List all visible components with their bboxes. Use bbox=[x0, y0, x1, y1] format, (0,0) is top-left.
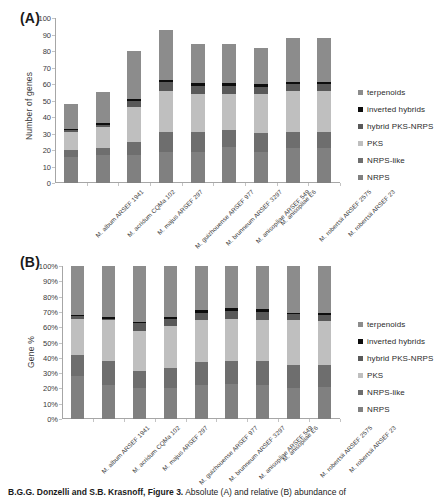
legend-item: hybrid PKS-NRPS bbox=[358, 350, 433, 366]
legend-swatch-hybrid-pks-nrps bbox=[358, 356, 363, 361]
bar-segment bbox=[225, 266, 238, 308]
bar-segment bbox=[195, 313, 208, 321]
bar-segment bbox=[133, 388, 146, 419]
bar-segment bbox=[102, 385, 115, 419]
bar-segment bbox=[225, 384, 238, 419]
y-tick-mark bbox=[59, 281, 62, 282]
legend-item: NRPS bbox=[358, 401, 433, 417]
legend-label: hybrid PKS-NRPS bbox=[367, 354, 433, 363]
legend-swatch-terpenoids bbox=[358, 90, 363, 95]
y-tick-mark bbox=[52, 150, 55, 151]
bar-segment bbox=[102, 266, 115, 316]
bar-segment bbox=[164, 326, 177, 367]
legend-swatch-nrps bbox=[358, 407, 363, 412]
panel-b-legend: terpenoidsinverted hybridshybrid PKS-NRP… bbox=[358, 316, 433, 418]
bar-segment bbox=[164, 319, 177, 327]
x-tick-mark bbox=[213, 183, 214, 186]
bar-segment bbox=[195, 385, 208, 419]
bar-segment bbox=[195, 362, 208, 385]
bar-segment bbox=[286, 84, 300, 91]
y-tick-label: 50% bbox=[43, 338, 58, 347]
stacked-bar bbox=[164, 266, 177, 419]
bar-segment bbox=[318, 321, 331, 365]
x-tick-mark bbox=[118, 183, 119, 186]
stacked-bar bbox=[127, 18, 141, 183]
bar-segment bbox=[127, 155, 141, 183]
legend-label: inverted hybrids bbox=[367, 337, 425, 346]
bar-segment bbox=[222, 44, 236, 83]
stacked-bar bbox=[286, 18, 300, 183]
x-axis-label: M. anisopliae E6 bbox=[281, 424, 319, 462]
legend-item: PKS bbox=[358, 367, 433, 383]
bar-segment bbox=[286, 38, 300, 83]
bar-segment bbox=[222, 86, 236, 94]
bar-segment bbox=[256, 320, 269, 361]
y-tick-label: 20% bbox=[43, 384, 58, 393]
y-tick-label: 90% bbox=[43, 277, 58, 286]
legend-label: PKS bbox=[367, 371, 383, 380]
x-tick-mark bbox=[245, 183, 246, 186]
bar-segment bbox=[191, 44, 205, 83]
bar-segment bbox=[256, 266, 269, 309]
x-tick-mark bbox=[340, 183, 341, 186]
stacked-bar bbox=[256, 266, 269, 419]
bar-segment bbox=[317, 148, 331, 183]
bar-segment bbox=[127, 101, 141, 108]
x-axis-label: M. brunneum ARSEF 3297 bbox=[224, 188, 283, 247]
panel-a-letter: (A) bbox=[20, 10, 40, 26]
bar-segment bbox=[254, 87, 268, 94]
y-tick-mark bbox=[59, 373, 62, 374]
bar-segment bbox=[254, 94, 268, 133]
y-tick-label: 70 bbox=[43, 63, 51, 72]
legend-swatch-pks bbox=[358, 141, 363, 146]
y-tick-mark bbox=[52, 51, 55, 52]
legend-label: terpenoids bbox=[367, 320, 405, 329]
legend-item: PKS bbox=[358, 135, 433, 151]
y-tick-mark bbox=[59, 358, 62, 359]
bar-segment bbox=[96, 127, 110, 148]
bar-segment bbox=[225, 311, 238, 319]
bar-segment bbox=[256, 361, 269, 385]
bar-segment bbox=[222, 94, 236, 130]
bar-segment bbox=[254, 133, 268, 153]
y-tick-mark bbox=[59, 343, 62, 344]
x-tick-mark bbox=[93, 419, 94, 422]
bar-segment bbox=[222, 147, 236, 183]
panel-b: (B) Gene % 100%90%80%70%60%50%40%30%20%1… bbox=[0, 250, 442, 478]
legend-item: inverted hybrids bbox=[358, 101, 433, 117]
stacked-bar bbox=[222, 18, 236, 183]
bar-segment bbox=[64, 104, 78, 129]
y-tick-mark bbox=[52, 18, 55, 19]
bar-segment bbox=[96, 155, 110, 183]
y-tick-label: 60 bbox=[43, 80, 51, 89]
y-tick-mark bbox=[52, 68, 55, 69]
bar-segment bbox=[133, 323, 146, 331]
x-tick-mark bbox=[308, 183, 309, 186]
bar-segment bbox=[133, 266, 146, 322]
bar-segment bbox=[286, 132, 300, 149]
x-axis-label: M. robertsii ARSEF 23 bbox=[347, 424, 397, 474]
legend-item: hybrid PKS-NRPS bbox=[358, 118, 433, 134]
bar-segment bbox=[254, 48, 268, 84]
bar-segment bbox=[225, 319, 238, 361]
y-tick-label: 0 bbox=[47, 179, 51, 188]
legend-swatch-nrps-like bbox=[358, 390, 363, 395]
y-tick-mark bbox=[52, 84, 55, 85]
y-tick-label: 100 bbox=[38, 14, 51, 23]
bar-segment bbox=[64, 157, 78, 183]
x-tick-mark bbox=[150, 183, 151, 186]
x-tick-mark bbox=[247, 419, 248, 422]
y-tick-mark bbox=[52, 117, 55, 118]
x-axis-label: M. anisopliae E6 bbox=[279, 188, 317, 226]
bar-segment bbox=[159, 82, 173, 90]
bar-segment bbox=[191, 86, 205, 94]
panel-a-y-axis-title: Number of genes bbox=[24, 72, 34, 140]
bar-segment bbox=[317, 91, 331, 132]
y-tick-label: 10 bbox=[43, 162, 51, 171]
bar-segment bbox=[102, 320, 115, 361]
y-tick-label: 80% bbox=[43, 292, 58, 301]
stacked-bar bbox=[71, 266, 84, 419]
bar-segment bbox=[159, 132, 173, 153]
legend-swatch-inverted-hybrids bbox=[358, 339, 363, 344]
y-tick-mark bbox=[52, 134, 55, 135]
